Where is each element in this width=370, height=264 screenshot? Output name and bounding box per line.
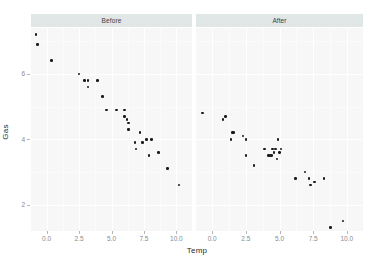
data-point — [87, 79, 90, 82]
facet-strip-before: Before — [31, 14, 192, 27]
data-point — [36, 43, 39, 46]
x-tick-label: 2.5 — [66, 235, 92, 243]
y-tick-label: 6 — [5, 70, 25, 77]
gridline-vertical-minor — [296, 28, 297, 231]
x-tick-mark — [112, 231, 113, 234]
data-point — [96, 79, 99, 82]
data-point — [123, 109, 126, 112]
data-point — [253, 164, 256, 167]
data-point — [201, 112, 204, 115]
data-point — [127, 122, 130, 125]
x-tick-label: 10.0 — [163, 235, 189, 243]
gridline-vertical — [280, 28, 281, 231]
data-point — [50, 59, 53, 62]
facet-strip-label: After — [196, 14, 363, 27]
data-point — [101, 95, 104, 98]
data-point — [278, 151, 281, 154]
data-point — [157, 151, 160, 154]
data-point — [294, 177, 297, 180]
data-point — [308, 177, 311, 180]
data-point — [123, 115, 126, 118]
data-point — [148, 154, 151, 157]
x-tick-label: 10.0 — [334, 235, 360, 243]
x-tick-mark — [176, 231, 177, 234]
gridline-vertical-minor — [63, 28, 64, 231]
gridline-vertical — [313, 28, 314, 231]
gridline-vertical-minor — [229, 28, 230, 231]
gridline-vertical — [144, 28, 145, 231]
data-point — [87, 86, 90, 89]
gridline-vertical — [246, 28, 247, 231]
x-tick-label: 0.0 — [34, 235, 60, 243]
x-axis-title: Temp — [31, 246, 363, 255]
data-point — [141, 141, 144, 144]
x-tick-mark — [212, 231, 213, 234]
gridline-vertical-minor — [95, 28, 96, 231]
gridline-vertical-minor — [263, 28, 264, 231]
data-point — [115, 109, 118, 112]
data-point — [150, 138, 153, 141]
data-point — [178, 184, 181, 187]
y-tick-label: 4 — [5, 136, 25, 143]
data-point — [127, 128, 130, 131]
y-tick-mark — [27, 205, 30, 206]
y-tick-mark — [27, 139, 30, 140]
x-tick-mark — [144, 231, 145, 234]
data-point — [222, 118, 225, 121]
gridline-vertical — [176, 28, 177, 231]
data-point — [274, 148, 277, 151]
data-point — [105, 109, 108, 112]
data-point — [263, 148, 266, 151]
scatter-plot-figure: Gas Temp 246 Before0.02.55.07.510.0After… — [0, 0, 370, 264]
gridline-vertical — [112, 28, 113, 231]
data-point — [309, 184, 312, 187]
x-tick-label: 0.0 — [199, 235, 225, 243]
x-tick-label: 7.5 — [300, 235, 326, 243]
x-tick-mark — [79, 231, 80, 234]
gridline-vertical-minor — [330, 28, 331, 231]
facet-panel-after — [196, 28, 363, 231]
data-point — [230, 138, 233, 141]
y-axis-title: Gas — [0, 0, 12, 264]
data-point — [342, 220, 345, 223]
data-point — [232, 131, 235, 134]
data-point — [242, 135, 245, 138]
data-point — [224, 115, 227, 118]
x-tick-label: 5.0 — [267, 235, 293, 243]
data-point — [139, 131, 142, 134]
x-tick-label: 2.5 — [233, 235, 259, 243]
data-point — [323, 177, 326, 180]
data-point — [35, 33, 38, 36]
data-point — [166, 167, 169, 170]
data-point — [245, 154, 248, 157]
facet-strip-label: Before — [31, 14, 192, 27]
data-point — [276, 158, 279, 161]
facet-panel-before — [31, 28, 192, 231]
x-tick-mark — [313, 231, 314, 234]
data-point — [83, 79, 86, 82]
x-tick-mark — [47, 231, 48, 234]
gridline-vertical — [47, 28, 48, 231]
data-point — [145, 138, 148, 141]
gridline-vertical — [212, 28, 213, 231]
data-point — [135, 148, 138, 151]
data-point — [245, 138, 248, 141]
data-point — [313, 181, 316, 184]
data-point — [134, 141, 137, 144]
data-point — [270, 154, 273, 157]
x-tick-label: 5.0 — [99, 235, 125, 243]
y-tick-mark — [27, 74, 30, 75]
gridline-vertical — [79, 28, 80, 231]
facet-strip-after: After — [196, 14, 363, 27]
y-tick-label: 2 — [5, 201, 25, 208]
x-tick-mark — [347, 231, 348, 234]
data-point — [329, 226, 332, 229]
x-tick-label: 7.5 — [131, 235, 157, 243]
gridline-vertical-minor — [160, 28, 161, 231]
x-tick-mark — [280, 231, 281, 234]
gridline-vertical — [347, 28, 348, 231]
x-tick-mark — [246, 231, 247, 234]
data-point — [273, 151, 276, 154]
